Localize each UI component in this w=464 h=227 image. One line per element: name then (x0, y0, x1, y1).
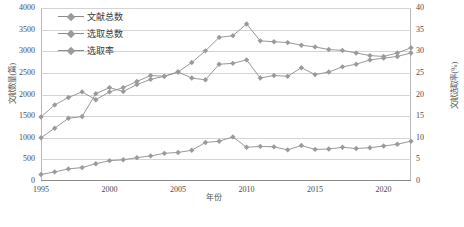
series-marker (312, 72, 317, 77)
legend-label: 文献总数 (84, 10, 123, 23)
series-marker (271, 73, 276, 78)
legend: 文献总数 选取总数 选取率 (58, 8, 162, 59)
series-marker (285, 147, 290, 152)
series-marker (340, 48, 345, 53)
y-tick-label-right: 15 (416, 111, 442, 120)
series-marker (189, 75, 194, 80)
y-tick-label: 1000 (5, 133, 35, 142)
series-marker (367, 57, 372, 62)
y-tick-label: 2500 (5, 68, 35, 77)
series-marker (162, 151, 167, 156)
series-marker (408, 45, 413, 50)
series-marker (66, 95, 71, 100)
series-marker (408, 50, 413, 55)
series-marker (175, 150, 180, 155)
x-tick-label: 2020 (367, 185, 401, 194)
series-marker (121, 89, 126, 94)
y-tick-label-right: 25 (416, 68, 442, 77)
series-marker (258, 144, 263, 149)
y-tick-label-right: 5 (416, 154, 442, 163)
series-line (41, 137, 411, 175)
x-tick-label: 2015 (298, 185, 332, 194)
series-marker (216, 139, 221, 144)
y-tick-label-right: 35 (416, 25, 442, 34)
series-marker (312, 44, 317, 49)
series-marker (93, 91, 98, 96)
y-axis-left-title: 文献数量(篇) (6, 47, 17, 121)
series-marker (408, 139, 413, 144)
y-tick-label: 3000 (5, 46, 35, 55)
legend-label: 选取总数 (84, 27, 123, 40)
series-marker (107, 85, 112, 90)
chart-figure: 文献数量(篇) 文献选取率(%) 年份 05001000150020002500… (0, 0, 464, 227)
series-marker (395, 54, 400, 59)
series-marker (299, 143, 304, 148)
series-marker (134, 155, 139, 160)
legend-item-selected: 选取总数 (58, 25, 162, 42)
y-tick-label-right: 0 (416, 176, 442, 185)
series-marker (395, 142, 400, 147)
legend-marker-icon (58, 12, 84, 21)
series-marker (203, 140, 208, 145)
series-marker (93, 161, 98, 166)
series-marker (230, 61, 235, 66)
series-marker (52, 169, 57, 174)
legend-item-rate: 选取率 (58, 42, 162, 59)
y-tick-label-right: 40 (416, 3, 442, 12)
legend-item-total: 文献总数 (58, 8, 162, 25)
series-marker (271, 144, 276, 149)
series-marker (148, 153, 153, 158)
series-marker (38, 135, 43, 140)
series-marker (79, 89, 84, 94)
series-marker (381, 143, 386, 148)
y-tick-label: 2000 (5, 90, 35, 99)
series-marker (340, 145, 345, 150)
series-marker (326, 47, 331, 52)
legend-label: 选取率 (84, 44, 114, 57)
series-marker (285, 74, 290, 79)
y-tick-label: 500 (5, 154, 35, 163)
series-marker (367, 145, 372, 150)
y-tick-label: 3500 (5, 25, 35, 34)
series-marker (340, 64, 345, 69)
series-marker (162, 74, 167, 79)
y-tick-label-right: 20 (416, 90, 442, 99)
x-tick-label: 2000 (93, 185, 127, 194)
series-marker (148, 77, 153, 82)
series-marker (66, 166, 71, 171)
y-tick-label: 0 (5, 176, 35, 185)
series-marker (107, 158, 112, 163)
series-marker (299, 65, 304, 70)
series-marker (326, 146, 331, 151)
series-marker (271, 39, 276, 44)
y-tick-label-right: 30 (416, 46, 442, 55)
series-marker (312, 147, 317, 152)
series-marker (354, 50, 359, 55)
series-marker (79, 114, 84, 119)
series-marker (175, 69, 180, 74)
legend-marker-icon (58, 29, 84, 38)
series-marker (285, 40, 290, 45)
series-marker (354, 146, 359, 151)
series-marker (121, 157, 126, 162)
series-marker (354, 62, 359, 67)
x-tick-label: 2005 (161, 185, 195, 194)
series-marker (299, 43, 304, 48)
series-marker (189, 148, 194, 153)
x-tick-label: 1995 (24, 185, 58, 194)
y-tick-label: 4000 (5, 3, 35, 12)
y-axis-right-title: 文献选取率(%) (448, 49, 459, 123)
x-axis-title: 年份 (206, 191, 222, 202)
series-marker (38, 172, 43, 177)
legend-marker-icon (58, 46, 84, 55)
series-marker (93, 97, 98, 102)
series-marker (79, 165, 84, 170)
x-tick-label: 2010 (230, 185, 264, 194)
series-marker (326, 69, 331, 74)
y-tick-label: 1500 (5, 111, 35, 120)
y-tick-label-right: 10 (416, 133, 442, 142)
